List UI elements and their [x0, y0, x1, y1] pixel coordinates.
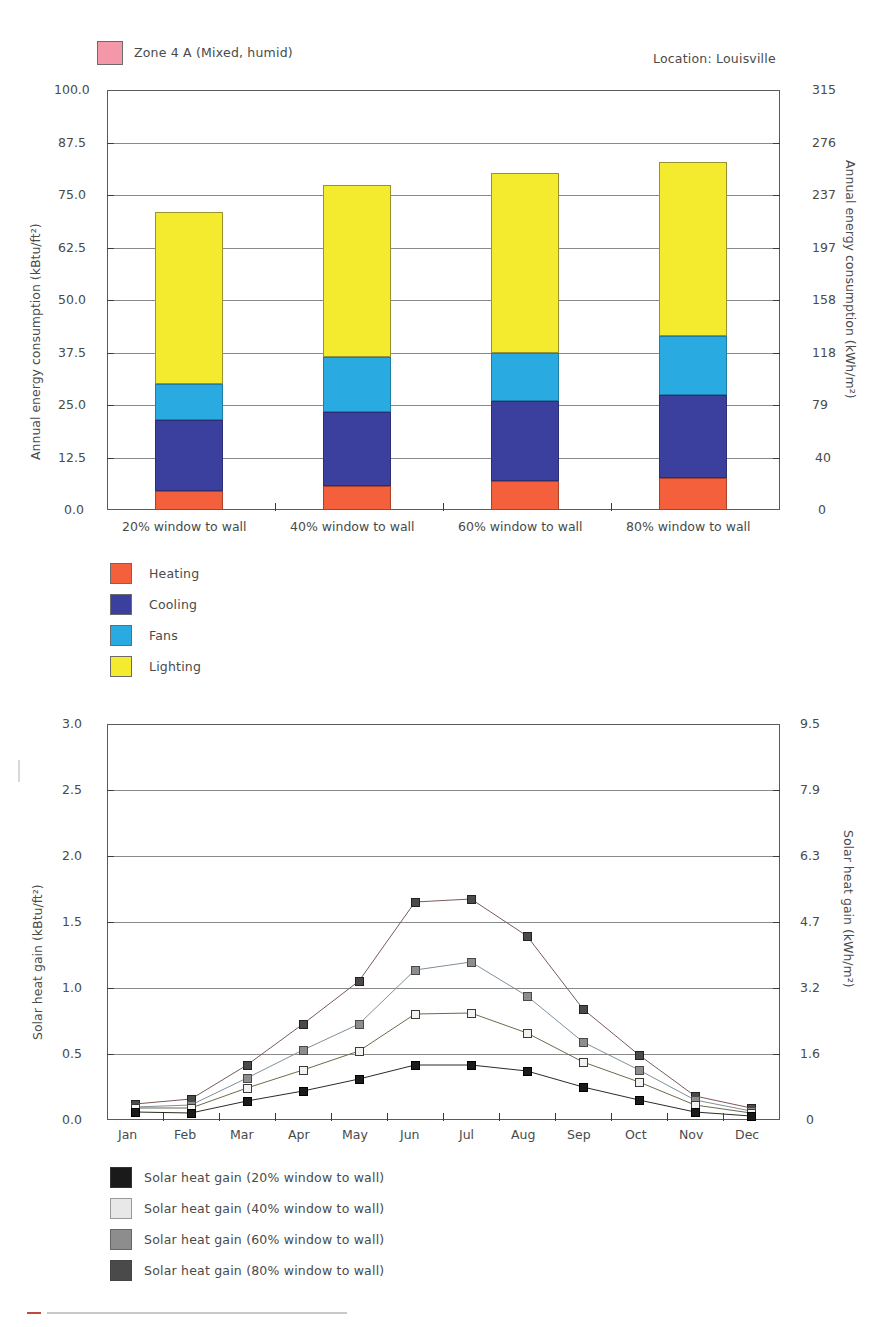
data-point-20[interactable]	[131, 1108, 140, 1117]
x-tick-label: Jan	[118, 1127, 137, 1142]
x-axis-tick	[723, 1113, 724, 1121]
x-tick-label: Dec	[735, 1127, 759, 1142]
data-point-80[interactable]	[411, 898, 420, 907]
legend-label-shg-60: Solar heat gain (60% window to wall)	[144, 1232, 384, 1247]
x-axis-tick	[611, 1113, 612, 1121]
y2-tick-label: 3.2	[800, 980, 820, 995]
data-point-60[interactable]	[523, 992, 532, 1001]
y2-tick-label: 6.3	[800, 848, 820, 863]
legend-label-shg-20: Solar heat gain (20% window to wall)	[144, 1170, 384, 1185]
data-point-80[interactable]	[635, 1051, 644, 1060]
data-point-20[interactable]	[467, 1061, 476, 1070]
data-point-40[interactable]	[635, 1078, 644, 1087]
y-axis-title: Solar heat gain (kBtu/ft²)	[30, 884, 45, 1040]
data-point-40[interactable]	[355, 1047, 364, 1056]
x-tick-label: Feb	[174, 1127, 196, 1142]
data-point-20[interactable]	[579, 1083, 588, 1092]
x-tick-label: Apr	[288, 1127, 310, 1142]
data-point-20[interactable]	[243, 1097, 252, 1106]
y2-tick-label: 7.9	[800, 782, 820, 797]
data-point-60[interactable]	[579, 1038, 588, 1047]
gridline	[107, 856, 780, 857]
x-tick-label: Mar	[230, 1127, 254, 1142]
axis-tick	[107, 790, 114, 791]
gridline	[107, 1054, 780, 1055]
y-tick-label: 0.0	[62, 1112, 82, 1127]
data-point-80[interactable]	[355, 977, 364, 986]
data-point-20[interactable]	[355, 1075, 364, 1084]
x-tick-label: Oct	[625, 1127, 647, 1142]
legend-swatch-shg-60	[110, 1229, 132, 1250]
data-point-60[interactable]	[243, 1074, 252, 1083]
footer-rule-red	[27, 1312, 41, 1314]
footer-rule-gray	[47, 1312, 347, 1314]
legend-label-shg-80: Solar heat gain (80% window to wall)	[144, 1263, 384, 1278]
data-point-80[interactable]	[299, 1020, 308, 1029]
x-axis-tick	[555, 1113, 556, 1121]
x-tick-label: Jul	[459, 1127, 474, 1142]
y-tick-label: 1.0	[62, 980, 82, 995]
data-point-20[interactable]	[299, 1087, 308, 1096]
x-axis-tick	[443, 1113, 444, 1121]
legend-swatch-shg-80	[110, 1260, 132, 1281]
data-point-40[interactable]	[243, 1084, 252, 1093]
x-axis-tick	[163, 1113, 164, 1121]
x-axis-tick	[667, 1113, 668, 1121]
x-axis-tick	[499, 1113, 500, 1121]
y2-tick-label: 4.7	[800, 914, 820, 929]
y2-tick-label: 1.6	[800, 1046, 820, 1061]
axis-tick	[773, 790, 780, 791]
data-point-80[interactable]	[579, 1005, 588, 1014]
axis-tick	[107, 922, 114, 923]
data-point-40[interactable]	[299, 1066, 308, 1075]
x-axis-tick	[387, 1113, 388, 1121]
gridline	[107, 988, 780, 989]
gridline	[107, 790, 780, 791]
axis-tick	[773, 922, 780, 923]
legend-swatch-shg-20	[110, 1167, 132, 1188]
data-point-20[interactable]	[411, 1061, 420, 1070]
x-tick-label: Aug	[511, 1127, 535, 1142]
y-tick-label: 0.5	[62, 1046, 82, 1061]
y2-tick-label: 9.5	[800, 716, 820, 731]
data-point-80[interactable]	[523, 932, 532, 941]
data-point-20[interactable]	[747, 1112, 756, 1121]
y2-tick-label: 0	[806, 1112, 814, 1127]
data-point-40[interactable]	[523, 1029, 532, 1038]
axis-tick	[773, 856, 780, 857]
figure-root: Zone 4 A (Mixed, humid) Location: Louisv…	[0, 0, 873, 1327]
x-axis-tick	[275, 1113, 276, 1121]
data-point-20[interactable]	[523, 1067, 532, 1076]
x-tick-label: Sep	[567, 1127, 591, 1142]
data-point-40[interactable]	[411, 1010, 420, 1019]
axis-tick	[107, 1054, 114, 1055]
data-point-60[interactable]	[355, 1020, 364, 1029]
y-tick-label: 1.5	[62, 914, 82, 929]
y2-axis-title: Solar heat gain (kWh/m²)	[841, 830, 856, 988]
axis-tick	[773, 1054, 780, 1055]
data-point-60[interactable]	[467, 958, 476, 967]
line-chart: 3.0 2.5 2.0 1.5 1.0 0.5 0.0 9.5 7.9 6.3 …	[0, 0, 873, 1327]
y-tick-label: 2.0	[62, 848, 82, 863]
legend-label-shg-40: Solar heat gain (40% window to wall)	[144, 1201, 384, 1216]
data-point-80[interactable]	[467, 895, 476, 904]
y-tick-label: 2.5	[62, 782, 82, 797]
data-point-40[interactable]	[579, 1058, 588, 1067]
data-point-60[interactable]	[411, 966, 420, 975]
data-point-60[interactable]	[635, 1066, 644, 1075]
axis-tick	[107, 988, 114, 989]
legend-swatch-shg-40	[110, 1198, 132, 1219]
margin-tick	[18, 760, 20, 782]
axis-tick	[773, 988, 780, 989]
x-axis-tick	[331, 1113, 332, 1121]
data-point-20[interactable]	[635, 1096, 644, 1105]
data-point-40[interactable]	[467, 1009, 476, 1018]
x-tick-label: May	[342, 1127, 368, 1142]
axis-tick	[107, 856, 114, 857]
x-axis-tick	[219, 1113, 220, 1121]
data-point-80[interactable]	[243, 1061, 252, 1070]
data-point-20[interactable]	[187, 1109, 196, 1118]
x-tick-label: Nov	[679, 1127, 703, 1142]
data-point-20[interactable]	[691, 1108, 700, 1117]
data-point-60[interactable]	[299, 1046, 308, 1055]
